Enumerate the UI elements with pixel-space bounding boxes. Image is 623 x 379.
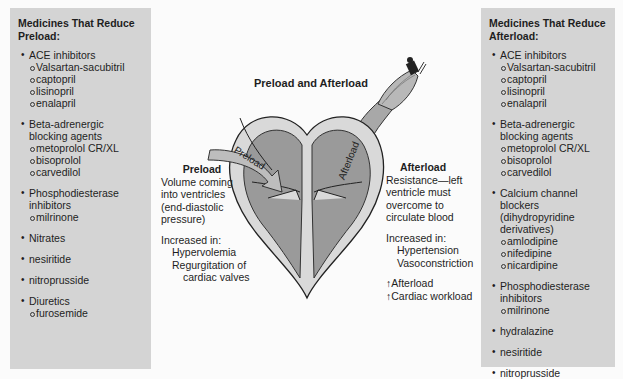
preload-desc-line: Volume coming xyxy=(161,176,261,189)
afterload-effect: ↑Afterload xyxy=(386,277,486,290)
diagram-title: Preload and Afterload xyxy=(254,77,368,90)
afterload-cause: Hypertension xyxy=(386,244,486,257)
afterload-desc-line: circulate blood xyxy=(386,211,486,224)
afterload-desc-line: overcome to xyxy=(386,199,486,212)
preload-desc-line: (end-diastolic xyxy=(161,201,261,214)
preload-desc-line: into ventricles xyxy=(161,188,261,201)
preload-cause: cardiac valves xyxy=(161,271,261,284)
afterload-description-block: Afterload Resistance—left ventricle must… xyxy=(386,161,486,302)
afterload-heading: Afterload xyxy=(400,161,486,174)
left-ventricle-chamber xyxy=(312,130,370,278)
preload-description-block: Preload Volume coming into ventricles (e… xyxy=(161,163,261,284)
afterload-desc-line: Resistance—left xyxy=(386,174,486,187)
aorta-bulb xyxy=(378,70,418,110)
afterload-cause: Vasoconstriction xyxy=(386,257,486,270)
preload-increased-in-label: Increased in: xyxy=(161,234,261,247)
afterload-increased-in-label: Increased in: xyxy=(386,232,486,245)
preload-heading: Preload xyxy=(143,163,261,176)
preload-cause: Hypervolemia xyxy=(161,246,261,259)
afterload-desc-line: ventricle must xyxy=(386,186,486,199)
preload-cause: Regurgitation of xyxy=(161,259,261,272)
afterload-effect: ↑Cardiac workload xyxy=(386,290,486,303)
preload-desc-line: pressure) xyxy=(161,213,261,226)
